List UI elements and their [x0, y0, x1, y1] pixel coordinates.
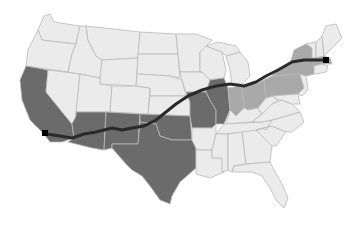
state-florida — [232, 162, 288, 208]
state-washington — [38, 14, 80, 44]
state-arkansas — [192, 124, 216, 150]
us-route-map — [0, 0, 357, 230]
endpoint-los-angeles-marker — [42, 130, 48, 136]
state-north-dakota — [138, 32, 178, 54]
us-map-svg — [0, 0, 357, 230]
state-wyoming — [100, 58, 138, 86]
state-connecticut-ri — [314, 64, 328, 74]
state-colorado — [110, 86, 150, 114]
state-michigan — [226, 52, 250, 84]
endpoint-boston-marker — [323, 57, 329, 63]
state-maine — [322, 24, 342, 56]
